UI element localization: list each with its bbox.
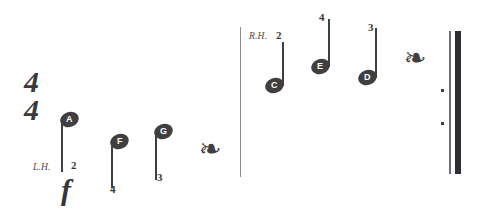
fingering-d: 3 xyxy=(368,22,374,33)
quarter-rest-right: ❧ xyxy=(404,44,427,71)
repeat-dot-upper xyxy=(441,89,444,92)
time-signature: 4 4 xyxy=(24,68,38,123)
quarter-rest-left: ❧ xyxy=(199,135,222,162)
note-stem xyxy=(61,124,63,172)
fingering-f: 4 xyxy=(110,184,116,195)
barline-thick xyxy=(455,31,461,174)
notehead-letter: D xyxy=(364,73,371,82)
notehead-letter: G xyxy=(160,127,167,136)
hand-label-right: R.H. xyxy=(249,31,267,41)
fingering-g: 3 xyxy=(157,172,163,183)
note-stem xyxy=(375,28,377,78)
hand-label-left: L.H. xyxy=(33,162,51,172)
note-stem xyxy=(328,19,330,67)
time-signature-denominator: 4 xyxy=(24,96,38,124)
fingering-e: 4 xyxy=(319,12,325,23)
note-stem xyxy=(282,42,284,86)
time-signature-numerator: 4 xyxy=(24,68,38,96)
notehead-letter: C xyxy=(271,81,278,90)
music-notation-canvas: 4 4 L.H. A 2 f F 4 G 3 ❧ R.H. 2 xyxy=(0,0,492,223)
fingering-c: 2 xyxy=(276,30,282,41)
notehead-letter: F xyxy=(117,137,123,146)
fingering-a: 2 xyxy=(71,160,77,171)
barline-thin xyxy=(449,31,451,174)
notehead-letter: A xyxy=(66,115,73,124)
dynamic-forte: f xyxy=(61,175,71,205)
repeat-dot-lower xyxy=(441,122,444,125)
note-stem xyxy=(111,146,113,188)
notehead-letter: E xyxy=(317,62,323,71)
section-divider xyxy=(240,27,241,177)
